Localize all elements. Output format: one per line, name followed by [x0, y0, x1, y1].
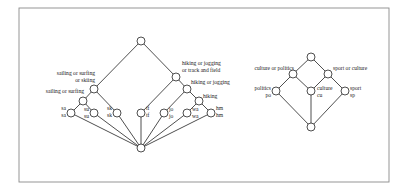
node-label: jo [168, 106, 174, 112]
node-label: jo [168, 113, 174, 119]
lattice-node-sp [341, 87, 349, 95]
node-label: sport [350, 85, 362, 91]
lattice-edge [276, 91, 311, 127]
lattice-edge [164, 89, 187, 113]
lattice-node-hm [207, 109, 215, 117]
node-label: or track and field [182, 67, 221, 73]
node-label: sp [350, 92, 355, 98]
node-label: sa [61, 112, 66, 118]
lattice-node-bottom [307, 123, 315, 131]
node-label: wa [192, 113, 199, 119]
lattice-edge [94, 41, 141, 89]
figure: sailing or surfingor skiingsailing or su… [0, 0, 407, 193]
lattice-node-jo [160, 109, 168, 117]
node-label: su [84, 113, 89, 119]
node-label: sa [61, 105, 66, 111]
lattice-diagram: sailing or surfingor skiingsailing or su… [0, 0, 407, 193]
lattice-node-cop [289, 70, 297, 78]
node-label: sailing or surfing [57, 70, 95, 76]
lattice-node-hj-tf [172, 73, 180, 81]
node-label: politics [255, 85, 271, 91]
lattice-edge [141, 41, 176, 77]
node-label: hiking or jogging [182, 60, 221, 66]
node-label: tf [146, 112, 150, 118]
node-label: cu [317, 92, 322, 98]
lattice-node-tf [137, 109, 145, 117]
node-label: or skiing [75, 77, 95, 83]
lattice-node-top [307, 53, 315, 61]
lattice-node-po [272, 87, 280, 95]
lattice-node-hj [183, 85, 191, 93]
lattice-node-cu [307, 87, 315, 95]
lattice-edge [94, 89, 117, 113]
node-label: culture [317, 85, 333, 91]
node-label: sk [107, 105, 112, 111]
node-label: hm [216, 112, 224, 118]
topic-lattice: culture or politicssport or culturepolit… [255, 53, 368, 131]
lattice-edge [117, 113, 141, 148]
lattice-edge [71, 113, 141, 148]
node-label: wa [192, 106, 199, 112]
node-label: hiking or jogging [191, 79, 230, 85]
node-label: su [84, 106, 89, 112]
node-label: tf [146, 105, 150, 111]
lattice-node-sa [67, 109, 75, 117]
lattice-node-hi [195, 97, 203, 105]
lattice-node-bottom [137, 144, 145, 152]
lattice-node-sos-ski [90, 85, 98, 93]
node-label: culture or politics [255, 65, 294, 71]
lattice-edge [141, 113, 164, 148]
node-label: po [265, 92, 271, 98]
lattice-node-sk [113, 109, 121, 117]
lattice-node-soc [324, 70, 332, 78]
lattice-node-sos [79, 97, 87, 105]
lattice-node-su [90, 109, 98, 117]
sport-lattice: sailing or surfingor skiingsailing or su… [46, 37, 230, 152]
lattice-edge [141, 113, 211, 148]
lattice-edge [141, 113, 187, 148]
node-label: hiking [203, 93, 217, 99]
node-label: sk [107, 112, 112, 118]
node-label: sailing or surfing [46, 88, 84, 94]
lattice-node-wa [183, 109, 191, 117]
node-label: hm [216, 105, 224, 111]
lattice-edge [94, 113, 141, 148]
lattice-node-top [137, 37, 145, 45]
node-label: sport or culture [333, 65, 368, 71]
